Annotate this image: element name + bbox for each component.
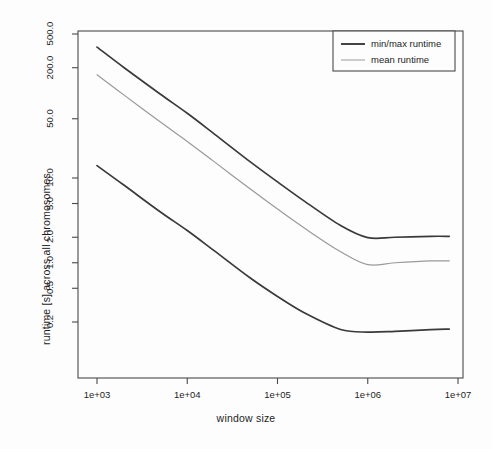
chart-figure: window size runtime [s] across all chrom… (0, 0, 492, 449)
x-tick-label: 1e+05 (248, 389, 308, 400)
y-tick-label: 0.2 (44, 302, 55, 342)
legend-label-1: mean runtime (371, 54, 429, 65)
plot-canvas (0, 0, 492, 449)
x-tick-label: 1e+03 (67, 389, 127, 400)
series-line-max-runtime (97, 47, 449, 238)
series-group (97, 47, 449, 332)
series-line-min-runtime (97, 166, 449, 333)
x-axis-title: window size (0, 412, 492, 424)
legend-label-0: min/max runtime (371, 38, 441, 49)
legend-box (333, 31, 455, 71)
x-tick-label: 1e+04 (157, 389, 217, 400)
y-tick-label: 200.0 (44, 47, 55, 87)
x-tick-label: 1e+06 (338, 389, 398, 400)
y-tick-label: 50.0 (44, 98, 55, 138)
x-tick-label: 1e+07 (428, 389, 488, 400)
